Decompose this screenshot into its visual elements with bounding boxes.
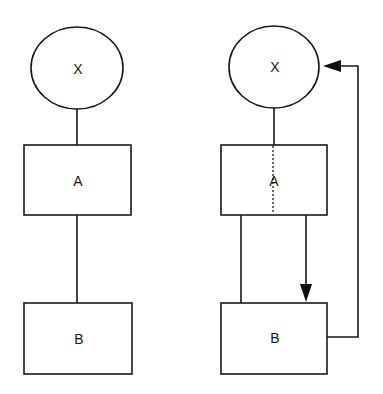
diagram-canvas: X A B X A B: [0, 0, 383, 394]
arrowhead-down-icon: [300, 284, 312, 302]
left-node-a-label: A: [73, 173, 83, 189]
left-node-b: B: [24, 303, 132, 374]
left-node-x: X: [31, 27, 123, 109]
left-node-x-label: X: [73, 61, 83, 77]
left-diagram: X A B: [24, 27, 132, 374]
left-node-a: A: [24, 145, 131, 215]
right-node-a-label: A: [269, 173, 279, 189]
left-node-b-label: B: [74, 331, 83, 347]
right-node-a: A: [221, 145, 327, 215]
right-node-x-label: X: [270, 59, 280, 75]
right-node-b: B: [221, 303, 327, 374]
arrowhead-left-icon: [323, 60, 341, 72]
right-diagram: X A B: [221, 26, 358, 374]
right-edge-feedback-b-x: [327, 66, 358, 337]
right-node-b-label: B: [270, 330, 279, 346]
right-node-x: X: [229, 26, 319, 108]
